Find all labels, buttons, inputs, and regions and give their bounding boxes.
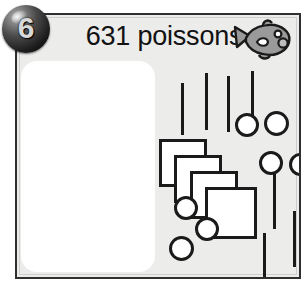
worksheet-page: 631 poissons 6 [0,0,307,295]
tally-stick [273,171,276,229]
base-ten-blocks [157,61,299,272]
tally-stick [293,211,296,267]
exercise-frame: 631 poissons [15,13,301,279]
unit-circle [174,196,198,220]
unit-circle [264,111,289,136]
exercise-number: 6 [2,5,50,53]
tally-stick [263,233,266,279]
numbered-bullet-icon: 6 [2,5,50,53]
unit-circle [169,236,194,261]
unit-circle [235,113,259,137]
unit-circle [289,153,301,176]
tally-stick [181,83,184,135]
unit-circle [259,151,283,175]
fish-icon [233,17,295,61]
page-title: 631 poissons [79,21,249,52]
answer-input-box[interactable] [21,61,155,272]
exercise-header: 631 poissons [17,15,299,61]
tally-stick [205,73,208,130]
tally-stick [227,76,230,132]
unit-circle [195,217,219,241]
